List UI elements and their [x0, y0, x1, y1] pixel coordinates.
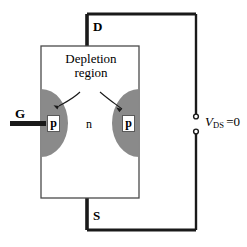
- jfet-figure: Depletion region D S G n p p VDS=0: [0, 0, 247, 247]
- drain-label: D: [93, 19, 102, 35]
- channel-label: n: [86, 117, 92, 132]
- terminal-dot-upper: [194, 114, 199, 119]
- depletion-region-caption: Depletion region: [52, 52, 130, 80]
- vds-subscript: DS: [213, 120, 224, 130]
- gate-label: G: [15, 106, 25, 122]
- vds-annotation: VDS=0: [205, 114, 240, 130]
- terminal-dot-lower: [194, 129, 199, 134]
- caption-line-2: region: [52, 66, 130, 80]
- p-region-left-label: p: [47, 115, 60, 132]
- vds-symbol: V: [205, 114, 213, 129]
- vds-value: =0: [226, 114, 240, 129]
- source-label: S: [93, 208, 100, 224]
- caption-line-1: Depletion: [52, 52, 130, 66]
- p-region-right-label: p: [122, 115, 135, 132]
